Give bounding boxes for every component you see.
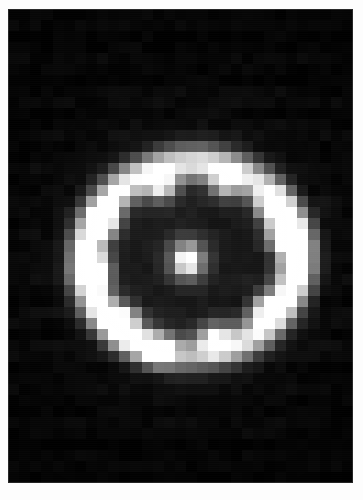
image-viewport: Circumstellar ring with central point so… <box>0 0 363 500</box>
ring-nebula-pixel-canvas <box>8 9 353 483</box>
image-subject-label: Circumstellar ring with central point so… <box>0 0 1 1</box>
astronomical-image-plate <box>8 9 353 483</box>
image-caption <box>0 0 1 1</box>
